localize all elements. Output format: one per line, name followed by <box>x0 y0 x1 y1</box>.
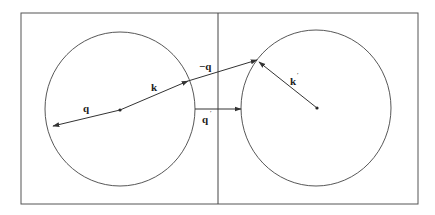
label-q: q <box>83 102 90 114</box>
scattering-diagram: q k −q q ′ k ′ <box>0 0 435 215</box>
vector-k-prime-arrow <box>259 62 317 108</box>
label-minus-q: −q <box>199 60 212 72</box>
label-k: k <box>151 81 158 93</box>
label-q-prime: q <box>202 113 209 125</box>
label-q-prime-mark: ′ <box>210 109 212 117</box>
label-k-prime: k <box>290 75 297 87</box>
label-k-prime-mark: ′ <box>297 71 299 79</box>
